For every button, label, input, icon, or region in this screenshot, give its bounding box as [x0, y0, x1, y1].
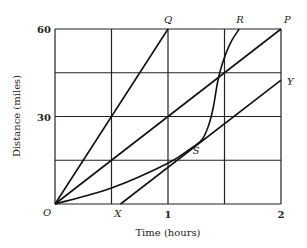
point-label-y: Y: [287, 76, 295, 87]
x-tick-label: 1: [165, 209, 172, 220]
point-label-p: P: [283, 14, 291, 25]
point-label-r: R: [235, 14, 244, 25]
y-tick-label: 60: [37, 24, 51, 35]
point-label-x: X: [113, 208, 122, 219]
point-label-q: Q: [164, 14, 172, 25]
point-label-o: O: [43, 207, 51, 218]
x-axis-label: Time (hours): [135, 227, 200, 238]
distance-time-chart: 306012 OXQRPYS Time (hours) Distance (mi…: [0, 0, 307, 248]
y-axis-label: Distance (miles): [11, 75, 22, 157]
point-label-s: S: [193, 145, 200, 156]
x-tick-label: 2: [278, 209, 285, 220]
y-tick-label: 30: [37, 112, 51, 123]
